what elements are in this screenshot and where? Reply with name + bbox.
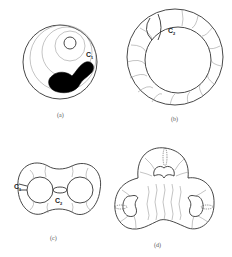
inner-small-circle-a bbox=[64, 37, 76, 49]
curve-c2-right bbox=[158, 14, 161, 40]
hole-right-d bbox=[188, 196, 203, 217]
inner-ring-b bbox=[145, 27, 211, 93]
ellipse-c2 bbox=[53, 187, 67, 193]
outer-ring-b bbox=[127, 9, 223, 105]
hole-left-d bbox=[123, 196, 138, 217]
hole-top-d bbox=[154, 166, 175, 178]
hole-right-c bbox=[67, 177, 93, 203]
outer-boundary-c bbox=[18, 163, 101, 215]
caption-c: (c) bbox=[50, 235, 57, 242]
hole-left-c bbox=[27, 177, 53, 203]
panel-a: C1 (a) bbox=[23, 25, 97, 119]
label-c1-a: C1 bbox=[86, 51, 94, 60]
label-c2-b: C2 bbox=[168, 27, 176, 36]
caption-a: (a) bbox=[57, 112, 64, 119]
caption-b: (b) bbox=[171, 116, 178, 123]
figure-canvas: C1 (a) C2 (b) bbox=[0, 0, 232, 257]
caption-d: (d) bbox=[154, 242, 161, 249]
panel-b: C2 (b) bbox=[127, 9, 223, 123]
panel-d: (d) bbox=[115, 148, 214, 249]
panel-c: C1 C2 (c) bbox=[14, 163, 101, 242]
label-c2-c: C2 bbox=[55, 197, 63, 206]
